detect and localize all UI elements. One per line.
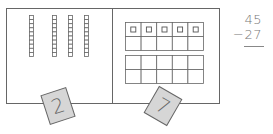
unit-cube [30, 36, 34, 40]
unit-cube [53, 28, 57, 32]
unit-cube [53, 32, 57, 36]
unit-cube [193, 27, 198, 32]
unit-cube [69, 24, 73, 28]
unit-cube [69, 20, 73, 24]
unit-cube [53, 48, 57, 52]
frame-cell [157, 37, 173, 51]
frame-cell [188, 70, 204, 84]
unit-cube [131, 27, 136, 32]
unit-cube [53, 44, 57, 48]
unit-cube [85, 16, 89, 20]
frame-cell [172, 70, 188, 84]
ten-frame-bottom [126, 56, 204, 84]
unit-cube [69, 52, 73, 56]
frame-cell [172, 56, 188, 70]
unit-cube [30, 32, 34, 36]
unit-cube [30, 48, 34, 52]
unit-cube [53, 24, 57, 28]
frame-cell [126, 70, 142, 84]
unit-cube [85, 28, 89, 32]
frame-cell [141, 56, 157, 70]
frame-cell [188, 37, 204, 51]
unit-cube [30, 44, 34, 48]
unit-cube [178, 27, 183, 32]
unit-cube [85, 32, 89, 36]
unit-cube [85, 20, 89, 24]
unit-cube [69, 28, 73, 32]
unit-cube [85, 52, 89, 56]
unit-cube [85, 48, 89, 52]
subtraction-line [244, 46, 264, 47]
unit-cube [30, 20, 34, 24]
unit-cube [53, 16, 57, 20]
unit-cube [69, 40, 73, 44]
frame-cell [126, 37, 142, 51]
unit-cube [53, 20, 57, 24]
unit-cube [69, 32, 73, 36]
unit-cube [85, 44, 89, 48]
unit-cube [69, 36, 73, 40]
frame-cell [157, 70, 173, 84]
frame-cell [172, 37, 188, 51]
unit-cube [162, 27, 167, 32]
unit-cube [30, 52, 34, 56]
frame-cell [157, 56, 173, 70]
unit-cube [30, 16, 34, 20]
frame-cell [141, 70, 157, 84]
frame-cell [141, 37, 157, 51]
unit-cube [85, 36, 89, 40]
unit-cube [69, 48, 73, 52]
unit-cube [53, 40, 57, 44]
frame-cell [188, 56, 204, 70]
unit-cube [85, 24, 89, 28]
ten-frame-top [126, 23, 204, 51]
unit-cube [30, 28, 34, 32]
unit-cube [53, 36, 57, 40]
frame-cell [126, 56, 142, 70]
minuend: 45 [222, 12, 262, 27]
unit-cube [30, 24, 34, 28]
subtrahend: −27 [222, 27, 262, 42]
unit-cube [146, 27, 151, 32]
unit-cube [53, 52, 57, 56]
unit-cube [69, 16, 73, 20]
unit-cube [85, 40, 89, 44]
unit-cube [69, 44, 73, 48]
unit-cube [30, 40, 34, 44]
